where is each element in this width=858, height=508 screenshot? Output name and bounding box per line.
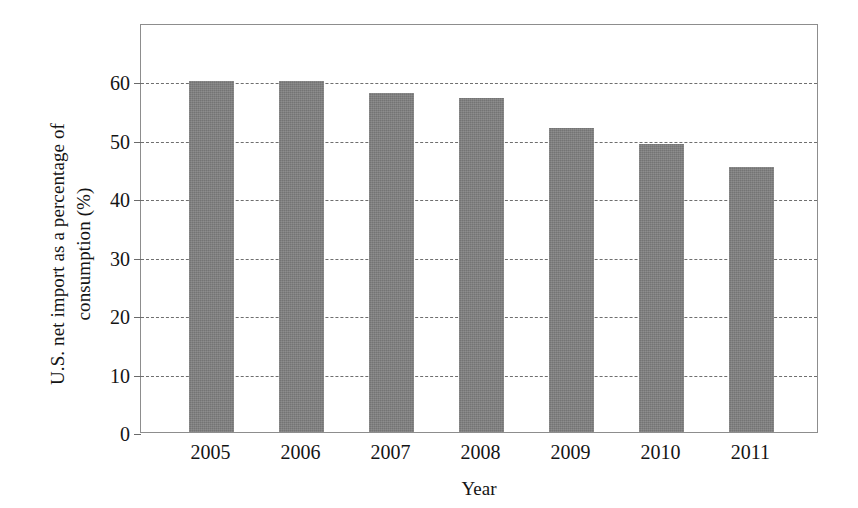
- bar-chart-figure: U.S. net import as a percentage of consu…: [0, 0, 858, 508]
- x-tick-label-2009: 2009: [525, 441, 615, 464]
- y-tick-label: 60: [110, 72, 130, 95]
- gridline-y-60: [141, 83, 817, 84]
- bar-2011[interactable]: [729, 167, 774, 432]
- x-tick-label-2007: 2007: [345, 441, 435, 464]
- y-tick-label: 20: [110, 306, 130, 329]
- x-axis-title: Year: [140, 478, 818, 500]
- y-tick-label: 10: [110, 364, 130, 387]
- y-axis-title: U.S. net import as a percentage of consu…: [45, 49, 97, 459]
- y-tick-label: 40: [110, 189, 130, 212]
- x-tick-label-2011: 2011: [705, 441, 795, 464]
- y-tick-mark: [134, 83, 141, 84]
- bar-2010[interactable]: [639, 144, 684, 432]
- x-tick-label-2010: 2010: [615, 441, 705, 464]
- y-tick-mark: [134, 434, 141, 435]
- bar-2006[interactable]: [279, 81, 324, 432]
- bar-2005[interactable]: [189, 81, 234, 432]
- y-tick-mark: [134, 376, 141, 377]
- y-tick-mark: [134, 200, 141, 201]
- y-tick-label: 0: [120, 423, 130, 446]
- x-tick-label-2005: 2005: [165, 441, 255, 464]
- bar-2007[interactable]: [369, 93, 414, 432]
- bar-2008[interactable]: [459, 98, 504, 432]
- x-tick-label-2008: 2008: [435, 441, 525, 464]
- y-tick-mark: [134, 259, 141, 260]
- x-tick-label-2006: 2006: [255, 441, 345, 464]
- y-tick-label: 50: [110, 130, 130, 153]
- bar-2009[interactable]: [549, 128, 594, 432]
- y-tick-mark: [134, 317, 141, 318]
- y-tick-label: 30: [110, 247, 130, 270]
- plot-area: 0102030405060: [140, 24, 818, 433]
- y-tick-mark: [134, 142, 141, 143]
